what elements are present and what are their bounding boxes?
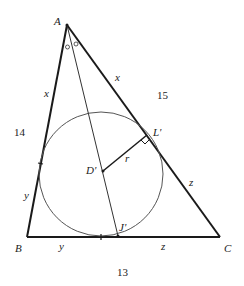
angle-mark-2 — [74, 42, 78, 46]
side-length-bc: 13 — [117, 266, 129, 278]
point-label-d: D' — [85, 164, 97, 176]
side-ac — [67, 25, 220, 237]
triangle-incircle-diagram: A B C D' L' J' x y x z y z r 14 15 13 — [0, 0, 244, 286]
label-z-ac: z — [188, 176, 194, 188]
side-length-ab: 14 — [14, 126, 26, 138]
vertex-label-b: B — [15, 242, 22, 254]
point-label-j: J' — [119, 221, 127, 233]
vertex-label-a: A — [53, 15, 61, 27]
angle-bisector-a — [67, 25, 118, 236]
point-j — [117, 235, 120, 238]
point-d — [102, 170, 105, 173]
label-y-ab: y — [23, 189, 29, 201]
label-x-ab: x — [43, 87, 49, 99]
label-y-bc: y — [58, 240, 64, 252]
tick-ab — [38, 163, 43, 164]
angle-mark-1 — [66, 45, 70, 49]
point-label-l: L' — [152, 126, 162, 138]
side-length-ac: 15 — [157, 89, 169, 101]
label-z-bc: z — [160, 240, 166, 252]
label-r: r — [125, 152, 130, 164]
point-a — [66, 24, 69, 27]
label-x-ac: x — [114, 71, 120, 83]
vertex-label-c: C — [224, 242, 232, 254]
